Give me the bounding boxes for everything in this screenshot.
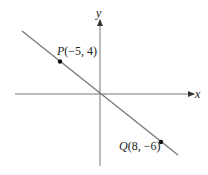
point-p-label: P(−5, 4) [56,44,97,58]
point-p [58,59,62,63]
x-axis-label: x [194,87,201,101]
y-axis-label: y [95,6,102,20]
point-q-label: Q(8, −6) [119,139,160,153]
point-p-coords: (−5, 4) [64,44,97,58]
point-q-name: Q [119,139,128,153]
point-q-coords: (8, −6) [128,139,161,153]
coordinate-diagram: x y P(−5, 4) Q(8, −6) [0,0,208,175]
